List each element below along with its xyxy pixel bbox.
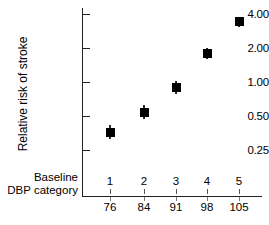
x-value-tick-4	[239, 197, 240, 201]
x-axis-line	[82, 196, 262, 197]
marker-square-2	[172, 83, 181, 92]
dbp-value-label-1: 84	[127, 202, 161, 214]
dbp-value-label-2: 91	[159, 202, 193, 214]
category-label-0: 1	[95, 176, 125, 188]
category-label-3: 4	[192, 176, 222, 188]
y-tick-label-3: 2.00	[229, 43, 269, 55]
category-label-1: 2	[129, 176, 159, 188]
y-tick-mark-4	[83, 14, 90, 15]
marker-square-0	[106, 128, 115, 137]
y-tick-mark-1	[83, 116, 90, 117]
x-axis-title: Baseline DBP category	[4, 171, 78, 196]
y-tick-label-2: 1.00	[229, 77, 269, 89]
x-tick-mark-3	[207, 189, 208, 194]
x-tick-mark-2	[176, 189, 177, 194]
dbp-value-label-3: 98	[190, 202, 224, 214]
x-tick-mark-4	[239, 189, 240, 194]
y-tick-mark-0	[83, 150, 90, 151]
y-tick-mark-3	[83, 48, 90, 49]
x-axis-title-line1: Baseline	[4, 171, 78, 184]
x-value-tick-3	[207, 197, 208, 201]
marker-square-1	[140, 108, 149, 117]
marker-square-4	[235, 17, 244, 26]
dbp-value-label-0: 76	[93, 202, 127, 214]
y-axis-line	[82, 8, 83, 196]
y-tick-label-0: 0.25	[229, 145, 269, 157]
x-tick-mark-0	[110, 189, 111, 194]
y-axis-title: Relative risk of stroke	[17, 19, 29, 169]
x-value-tick-1	[144, 197, 145, 201]
category-label-4: 5	[224, 176, 254, 188]
x-tick-mark-1	[144, 189, 145, 194]
marker-square-3	[203, 49, 212, 58]
y-tick-label-1: 0.50	[229, 111, 269, 123]
x-value-tick-0	[110, 197, 111, 201]
x-value-tick-2	[176, 197, 177, 201]
y-tick-mark-2	[83, 82, 90, 83]
stroke-risk-chart: Relative risk of stroke 4.00 2.00 1.00 0…	[0, 0, 269, 225]
dbp-value-label-4: 105	[222, 202, 256, 214]
x-axis-title-line2: DBP category	[4, 184, 78, 197]
category-label-2: 3	[161, 176, 191, 188]
